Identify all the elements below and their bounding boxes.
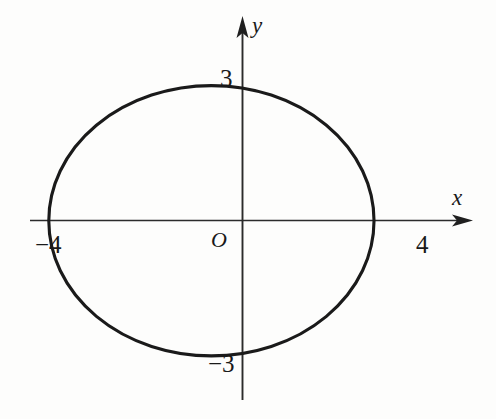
x-axis-tick-label-negative-4: −4 (35, 232, 62, 257)
y-axis-label: y (252, 14, 262, 37)
origin-label: O (211, 229, 227, 251)
ellipse-figure: y x 3 −3 −4 4 O (0, 0, 496, 419)
x-axis-label: x (452, 186, 462, 209)
coordinate-plot (0, 0, 496, 419)
y-axis-tick-label-3: 3 (220, 66, 233, 91)
y-axis-tick-label-negative-3: −3 (208, 351, 235, 376)
x-axis-tick-label-4: 4 (416, 232, 429, 257)
